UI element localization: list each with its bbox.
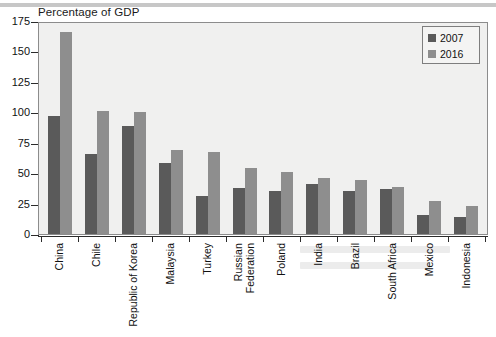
legend-item-label: 2007 (440, 32, 463, 44)
x-axis-category-label-text: Malaysia (165, 243, 177, 284)
x-axis-category-label: Russian Federation (226, 243, 263, 335)
x-axis-category-label: China (41, 243, 78, 335)
x-axis-category-label: Mexico (411, 243, 448, 335)
x-axis-category-label: Republic of Korea (115, 243, 152, 335)
bar (306, 184, 318, 234)
y-axis-tick (31, 144, 38, 145)
y-axis-tick (31, 235, 38, 236)
bar (417, 215, 429, 234)
x-axis-category-label-text: India (313, 243, 325, 266)
bar (122, 126, 134, 234)
bar (208, 152, 220, 234)
plot-area (38, 22, 488, 235)
y-axis-tick-labels: 0255075100125150175 (0, 0, 30, 337)
y-axis-tick (31, 22, 38, 23)
x-axis-category-label: Poland (263, 243, 300, 335)
bar (171, 150, 183, 234)
bar (159, 163, 171, 234)
x-axis-tick (448, 237, 449, 242)
y-axis-tick (31, 52, 38, 53)
bar (60, 32, 72, 234)
x-axis-tick (411, 237, 412, 242)
x-axis-category-label-text: South Africa (387, 243, 399, 300)
bar-group (152, 23, 189, 234)
legend-swatch-icon (428, 50, 436, 58)
x-axis-tick (485, 237, 486, 242)
x-axis-category-label-text: China (54, 243, 66, 270)
x-axis-category-label-text: Russian Federation (233, 243, 256, 293)
y-axis-tick-label: 75 (2, 137, 30, 149)
bar-group (263, 23, 300, 234)
bar-group (373, 23, 410, 234)
bar (392, 187, 404, 234)
bar (97, 111, 109, 234)
y-axis-tick-label: 25 (2, 198, 30, 210)
bar (466, 206, 478, 234)
bar-group (116, 23, 153, 234)
bar (233, 188, 245, 234)
legend-swatch-icon (428, 34, 436, 42)
x-axis-category-label: Chile (78, 243, 115, 335)
x-axis-tick (115, 237, 116, 242)
x-axis-category-label-text: Turkey (202, 243, 214, 275)
bar-groups (39, 23, 487, 234)
y-axis-tick-label: 150 (2, 45, 30, 57)
chart-legend: 20072016 (422, 26, 480, 64)
bar (454, 217, 466, 234)
x-axis-category-label-text: Poland (276, 243, 288, 276)
y-axis-tick (31, 113, 38, 114)
legend-item-label: 2016 (440, 48, 463, 60)
bar (134, 112, 146, 234)
y-axis-tick-label: 175 (2, 15, 30, 27)
bar (85, 154, 97, 234)
bar (269, 191, 281, 234)
y-axis-tick (31, 83, 38, 84)
bar (245, 168, 257, 234)
x-axis-category-label-text: Chile (91, 243, 103, 267)
x-axis-category-label: India (300, 243, 337, 335)
x-axis-category-label-text: Indonesia (461, 243, 473, 289)
x-axis-category-label: Brazil (337, 243, 374, 335)
bar (318, 178, 330, 234)
legend-item: 2016 (428, 46, 479, 62)
y-axis-tick (31, 205, 38, 206)
bar (380, 189, 392, 234)
x-axis-tick (263, 237, 264, 242)
bar-chart-figure: Percentage of GDP 0255075100125150175 Ch… (0, 0, 496, 337)
y-axis-tick (31, 174, 38, 175)
bar (196, 196, 208, 234)
y-axis-title: Percentage of GDP (38, 6, 139, 18)
y-axis-tick-label: 0 (2, 228, 30, 240)
x-axis-tick (41, 237, 42, 242)
y-axis-tick-label: 100 (2, 106, 30, 118)
y-axis-tick-label: 50 (2, 167, 30, 179)
x-axis-category-label: Turkey (189, 243, 226, 335)
bar-group (337, 23, 374, 234)
x-axis-tick (78, 237, 79, 242)
x-axis-category-label: Indonesia (448, 243, 485, 335)
x-axis-category-label-text: Brazil (350, 243, 362, 269)
bar-group (300, 23, 337, 234)
bar (429, 201, 441, 234)
bar-group (226, 23, 263, 234)
x-axis-tick (189, 237, 190, 242)
bar-group (79, 23, 116, 234)
bar-group (189, 23, 226, 234)
x-axis-tick (300, 237, 301, 242)
x-axis-tick (152, 237, 153, 242)
x-axis-tick (226, 237, 227, 242)
x-axis-tick (337, 237, 338, 242)
bar (343, 191, 355, 234)
x-axis-tick (374, 237, 375, 242)
y-axis-tick-label: 125 (2, 76, 30, 88)
bar (355, 180, 367, 234)
legend-item: 2007 (428, 30, 479, 46)
x-axis-category-labels: ChinaChileRepublic of KoreaMalaysiaTurke… (38, 243, 488, 335)
x-axis-category-label: South Africa (374, 243, 411, 335)
bar (281, 172, 293, 234)
x-axis-category-label-text: Republic of Korea (128, 243, 140, 326)
x-axis-category-label-text: Mexico (424, 243, 436, 276)
x-axis-category-label: Malaysia (152, 243, 189, 335)
bar (48, 116, 60, 234)
bar-group (42, 23, 79, 234)
